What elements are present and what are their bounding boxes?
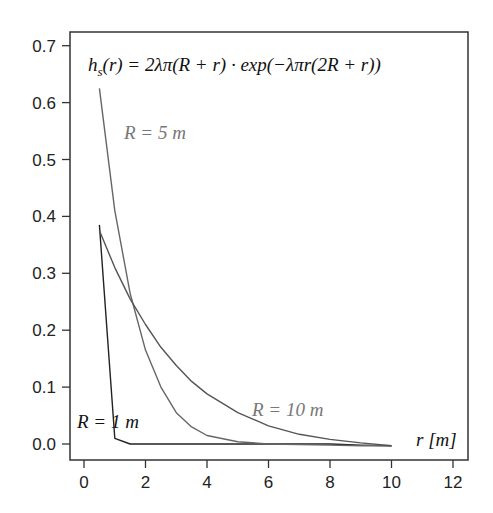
x-tick-label: 0 (79, 473, 88, 492)
y-tick-label: 0.5 (32, 151, 56, 170)
x-tick-label: 4 (202, 473, 211, 492)
y-axis: 0.00.10.20.30.40.50.60.7 (32, 37, 70, 454)
annotation-r1: R = 1 m (76, 411, 139, 432)
plot-frame (70, 32, 468, 460)
x-axis-label: r [m] (416, 429, 457, 450)
x-tick-label: 6 (264, 473, 273, 492)
y-tick-label: 0.2 (32, 321, 56, 340)
annotation-r10: R = 10 m (251, 399, 323, 420)
x-tick-label: 12 (444, 473, 463, 492)
y-tick-label: 0.4 (32, 207, 56, 226)
x-tick-label: 8 (325, 473, 334, 492)
y-tick-label: 0.6 (32, 94, 56, 113)
x-axis: 024681012 (79, 460, 462, 492)
y-tick-label: 0.1 (32, 378, 56, 397)
y-tick-label: 0.0 (32, 435, 56, 454)
x-tick-label: 10 (382, 473, 401, 492)
x-tick-label: 2 (141, 473, 150, 492)
y-tick-label: 0.3 (32, 264, 56, 283)
y-tick-label: 0.7 (32, 37, 56, 56)
chart: 0.00.10.20.30.40.50.60.7 024681012 hs(r)… (0, 0, 493, 513)
annotation-r5: R = 5 m (123, 122, 186, 143)
